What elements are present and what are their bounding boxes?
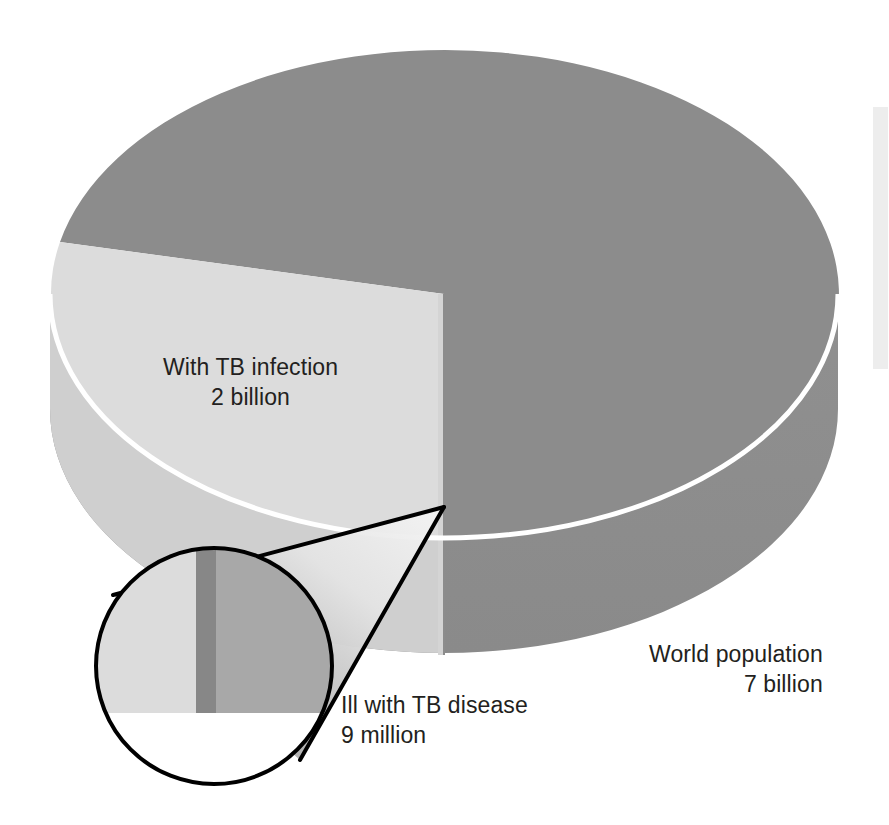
figure-canvas: With TB infection 2 billion World popula…: [0, 0, 889, 825]
label-ill-with-tb-disease-line2: 9 million: [341, 720, 528, 750]
magnifier-circle: [95, 547, 336, 785]
label-world-population-line1: World population: [649, 639, 823, 669]
label-with-tb-infection-line2: 2 billion: [163, 382, 338, 412]
label-with-tb-infection-line1: With TB infection: [163, 352, 338, 382]
label-world-population-line2: 7 billion: [649, 669, 823, 699]
label-world-population: World population 7 billion: [649, 639, 823, 699]
label-with-tb-infection: With TB infection 2 billion: [163, 352, 338, 412]
magnified-ill-sliver: [196, 547, 216, 713]
page-edge-artifact-bar: [873, 107, 888, 369]
label-ill-with-tb-disease-line1: Ill with TB disease: [341, 690, 528, 720]
label-ill-with-tb-disease: Ill with TB disease 9 million: [341, 690, 528, 750]
